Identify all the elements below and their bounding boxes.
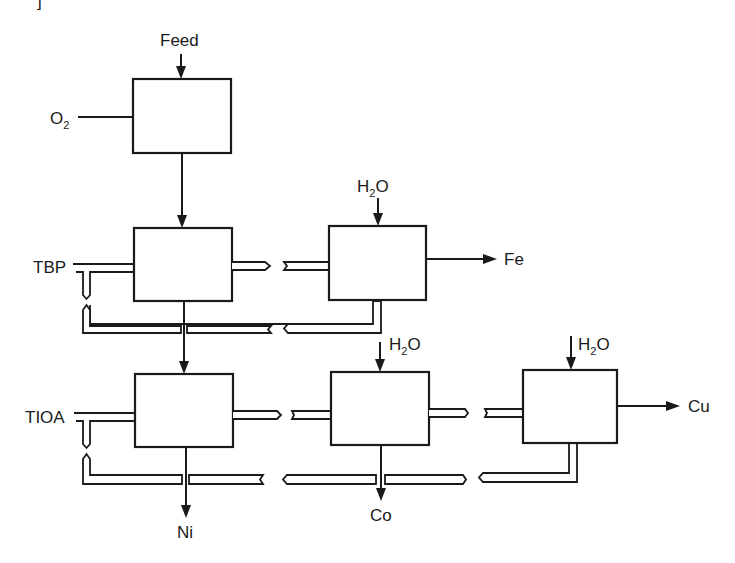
corner-mark: ] [37,0,42,11]
ni-output-stream: Ni [177,447,193,542]
arrow-right-icon [666,401,680,411]
unit-tioa-extraction [135,374,233,447]
arrow-down-icon [375,359,385,372]
water-label-1: H2O [357,177,389,199]
water-stream-2: H2O [375,335,421,372]
water-label-2: H2O [389,335,421,357]
co-output-stream: Co [370,445,392,525]
feed-label: Feed [160,31,199,50]
water-stream-1: H2O [357,177,389,226]
tioa-label: TIOA [25,408,65,427]
tioa-organic-recycle [83,443,577,484]
arrow-down-icon [376,488,386,501]
flowsheet-canvas: ] Feed O2 TBP H2O [0,0,735,563]
feed-stream: Feed [160,31,199,79]
arrow-down-icon [179,361,189,374]
arrow-down-icon [566,357,576,370]
oxygen-stream: O2 [50,109,133,131]
arrow-down-icon [176,66,186,79]
unit-cu-strip [523,370,617,443]
tioa-stream: TIOA [25,408,135,448]
arrow-right-icon [483,254,497,264]
tbp-recycle-pipe-inner [90,305,377,324]
co-label: Co [370,506,392,525]
co-to-cu-organic-pipe [429,409,523,417]
ni-label: Ni [177,523,193,542]
unit-co-strip [331,372,429,445]
cu-output-stream: Cu [617,397,710,416]
fe-output-stream: Fe [426,250,524,269]
cu-label: Cu [688,397,710,416]
fe-label: Fe [504,250,524,269]
tbp-loaded-organic-pipe [232,262,329,270]
unit-leach [133,79,231,153]
tbp-stream: TBP [33,258,134,299]
tbp-label: TBP [33,258,66,277]
oxygen-label: O2 [50,109,69,131]
arrow-down-icon [373,213,383,226]
unit-tbp-extraction [134,228,232,301]
arrow-down-icon [181,505,191,518]
leach-to-tbp-stream [177,153,187,228]
water-label-3: H2O [578,335,610,357]
unit-fe-strip [329,226,426,300]
arrow-down-icon [177,215,187,228]
water-stream-3: H2O [566,335,610,370]
tioa-loaded-organic-pipe [233,411,331,419]
